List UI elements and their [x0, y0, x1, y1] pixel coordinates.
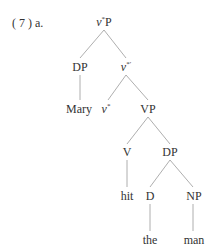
edge-vbar-vstar: [108, 75, 126, 100]
tree-edges: [0, 0, 216, 251]
node-vstar-p: v*P: [96, 16, 112, 28]
edge-vp-dp: [148, 117, 170, 144]
edge-vbar-vp: [126, 75, 148, 100]
leaf-mary: Mary: [66, 103, 92, 115]
edge-root-dp: [80, 30, 104, 58]
edge-dp-d: [150, 160, 170, 187]
edge-dp-np: [170, 160, 193, 187]
leaf-the: the: [143, 234, 158, 246]
node-vp: VP: [140, 103, 155, 115]
node-v: V: [123, 146, 132, 158]
edge-root-vbar: [104, 30, 126, 58]
node-d: D: [146, 190, 155, 202]
leaf-hit: hit: [121, 190, 134, 202]
node-vstar-head: v*: [102, 103, 111, 115]
node-np: NP: [186, 190, 201, 202]
node-dp-subject: DP: [72, 61, 87, 73]
node-vstar-bar: v*′: [121, 61, 131, 73]
node-dp-object: DP: [162, 146, 177, 158]
edge-vp-v: [127, 117, 148, 144]
leaf-man: man: [184, 234, 205, 246]
